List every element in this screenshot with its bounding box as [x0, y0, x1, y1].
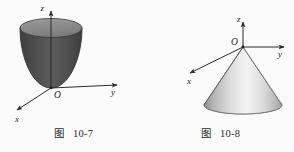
z-axis-label: z: [40, 3, 45, 13]
figure-page: z y x O 图10-7: [0, 0, 294, 152]
x-axis-label: x: [186, 76, 191, 86]
x-axis: [17, 88, 51, 110]
z-axis-label: z: [236, 14, 241, 24]
origin-label: O: [231, 37, 238, 47]
origin-point: [242, 46, 245, 49]
figure-caption: 图10-8: [147, 125, 294, 140]
origin-label: O: [54, 90, 61, 100]
origin-point: [50, 87, 53, 90]
caption-word: 图: [54, 127, 64, 139]
caption-number: 10-8: [220, 128, 240, 139]
cone-lateral-surface: [204, 47, 282, 114]
figure-10-8: z y x O 图10-8: [147, 0, 294, 152]
figure-10-7: z y x O 图10-7: [0, 0, 147, 152]
figure-caption: 图10-7: [0, 125, 147, 140]
y-axis-label: y: [277, 49, 282, 59]
y-axis-label: y: [110, 87, 115, 97]
cone-solid: [204, 47, 282, 114]
x-axis-label: x: [14, 114, 19, 124]
caption-word: 图: [201, 127, 211, 139]
caption-number: 10-7: [73, 128, 93, 139]
